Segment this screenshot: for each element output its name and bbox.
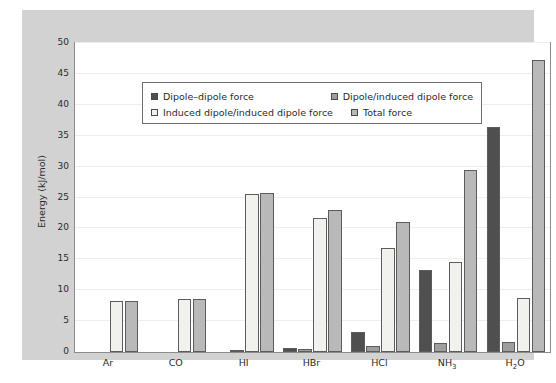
y-tick-label: 35 <box>58 130 69 140</box>
x-tick-label: H2O <box>506 357 525 371</box>
bar <box>125 301 139 352</box>
y-tick-label: 20 <box>58 222 69 232</box>
y-tick-label: 50 <box>58 37 69 47</box>
legend-swatch-icon <box>331 93 338 100</box>
y-tick-label: 0 <box>63 346 69 356</box>
x-tick-label: NH3 <box>438 357 457 371</box>
bar <box>245 194 259 352</box>
legend-label: Total force <box>363 107 412 118</box>
legend-row: Dipole–dipole force Dipole/induced dipol… <box>151 88 473 104</box>
chart-legend: Dipole–dipole force Dipole/induced dipol… <box>142 82 482 124</box>
legend-label: Dipole/induced dipole force <box>343 91 473 102</box>
bar <box>193 299 207 352</box>
legend-item-total-force: Total force <box>351 107 412 118</box>
x-tick-label: HBr <box>303 357 321 368</box>
bar <box>381 248 395 352</box>
chart-figure: Energy (kJ/mol) 05101520253035404550 Dip… <box>22 10 534 360</box>
y-tick-label: 10 <box>58 284 69 294</box>
bar <box>502 342 516 353</box>
bar <box>260 193 274 352</box>
legend-item-induced-dipole-induced-dipole-force: Induced dipole/induced dipole force <box>151 107 351 118</box>
y-axis: Energy (kJ/mol) 05101520253035404550 <box>22 36 74 356</box>
y-axis-title: Energy (kJ/mol) <box>36 127 47 257</box>
x-tick-label: CO <box>169 357 183 368</box>
bar <box>517 298 531 352</box>
legend-item-dipole-dipole-force: Dipole–dipole force <box>151 91 331 102</box>
bar <box>110 301 124 352</box>
legend-label: Induced dipole/induced dipole force <box>163 107 333 118</box>
bar <box>464 170 478 352</box>
y-tick-label: 40 <box>58 99 69 109</box>
bar <box>449 262 463 352</box>
bar <box>366 346 380 352</box>
y-tick-label: 5 <box>63 315 69 325</box>
bar <box>396 222 410 352</box>
bar <box>487 127 501 352</box>
legend-swatch-icon <box>351 109 358 116</box>
bar <box>283 348 297 352</box>
legend-swatch-icon <box>151 109 158 116</box>
legend-row: Induced dipole/induced dipole force Tota… <box>151 104 473 120</box>
plot-area: Dipole–dipole force Dipole/induced dipol… <box>74 42 551 353</box>
bar <box>313 218 327 352</box>
bar <box>434 343 448 352</box>
legend-item-dipole-induced-dipole-force: Dipole/induced dipole force <box>331 91 473 102</box>
x-axis: ArCOHIHBrHClNH3H2O <box>74 355 551 377</box>
legend-swatch-icon <box>151 93 158 100</box>
bar <box>230 350 244 352</box>
y-tick-label: 15 <box>58 253 69 263</box>
x-tick-label: HI <box>239 357 249 368</box>
bar <box>351 332 365 352</box>
legend-label: Dipole–dipole force <box>163 91 254 102</box>
y-tick-label: 45 <box>58 68 69 78</box>
bar <box>298 349 312 352</box>
bar <box>328 210 342 352</box>
bar <box>419 270 433 352</box>
y-tick-label: 25 <box>58 192 69 202</box>
bar <box>532 60 546 352</box>
x-tick-label: Ar <box>103 357 113 368</box>
x-tick-label: HCl <box>371 357 387 368</box>
y-tick-label: 30 <box>58 161 69 171</box>
bar <box>178 299 192 352</box>
